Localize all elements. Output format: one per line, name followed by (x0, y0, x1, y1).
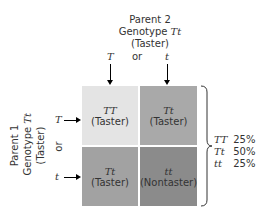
cell-Tt-bottom: Tt (Taster) (82, 147, 138, 206)
summary-row: Tt 50% (214, 146, 255, 157)
parent2-allele-T: T (107, 51, 114, 62)
parent2-or: or (132, 51, 142, 62)
parent2-phenotype: (Taster) (100, 38, 200, 49)
parent1-allele-t: t (55, 171, 59, 182)
summary-genotype: Tt (214, 146, 230, 157)
parent2-genotype-value: Tt (171, 26, 182, 37)
cell-Tt-top: Tt (Taster) (140, 86, 197, 145)
arrow-right-icon (64, 120, 77, 121)
arrow-right-icon (64, 177, 77, 178)
parent1-genotype: Genotype Tt (22, 116, 33, 176)
parent1-or: or (53, 137, 64, 157)
cell-genotype: Tt (105, 166, 116, 177)
summary-genotype: TT (214, 134, 230, 145)
cell-genotype: Tt (163, 105, 174, 116)
summary-percent: 50% (233, 146, 255, 157)
summary-genotype: tt (214, 158, 230, 169)
arrow-down-icon (167, 64, 168, 81)
summary-percent: 25% (233, 134, 255, 145)
cell-tt: tt (Nontaster) (140, 147, 197, 206)
cell-phenotype: (Taster) (91, 116, 129, 127)
cell-phenotype: (Nontaster) (140, 177, 197, 188)
summary-percent: 25% (233, 158, 255, 169)
cell-genotype: TT (103, 105, 117, 116)
brace-icon (199, 84, 213, 208)
summary-row: tt 25% (214, 158, 255, 169)
parent1-genotype-prefix: Genotype (22, 124, 33, 176)
cell-phenotype: (Taster) (91, 177, 129, 188)
cell-genotype: tt (164, 166, 172, 177)
arrow-down-icon (110, 64, 111, 81)
parent2-title: Parent 2 (100, 14, 200, 25)
parent1-allele-T: T (55, 114, 62, 125)
parent2-genotype-prefix: Genotype (119, 26, 171, 37)
cell-TT: TT (Taster) (82, 86, 138, 145)
parent2-genotype: Genotype Tt (100, 26, 200, 37)
parent1-title: Parent 1 (9, 116, 20, 176)
punnett-square: TT (Taster) Tt (Taster) Tt (Taster) tt (… (82, 86, 197, 206)
parent1-genotype-value: Tt (22, 113, 33, 124)
cell-phenotype: (Taster) (150, 116, 188, 127)
summary-row: TT 25% (214, 134, 255, 145)
parent1-phenotype: (Taster) (35, 116, 46, 176)
parent2-allele-t: t (165, 51, 169, 62)
